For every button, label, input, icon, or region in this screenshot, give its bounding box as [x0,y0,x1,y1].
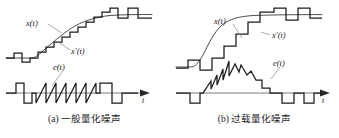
figure-root: x(t) x′(t) e(t) t (a) 一般量化噪声 x(t) x′(t) [0,0,339,138]
panel-b-caption: (b) 过载量化噪声 [170,112,339,126]
leader-line-input-b [233,24,242,38]
input-signal-label-a: x(t) [25,18,38,28]
leader-line-input-a [48,24,62,33]
error-signal-b [176,61,322,103]
error-signal-label-a: e(t) [53,62,65,72]
leader-line-quantized-a [58,42,70,50]
time-axis-label-b: t [322,96,325,105]
quantized-signal-label-a: x′(t) [70,46,85,56]
error-signal-label-b: e(t) [273,58,285,68]
leader-line-error-b [271,67,280,79]
panel-a-diagram: x(t) x′(t) e(t) t [0,0,169,112]
time-axis-label-a: t [142,96,145,105]
quantized-signal-label-b: x′(t) [271,30,286,40]
input-signal-label-b: x(t) [213,16,226,26]
panel-b-overload-quantization-noise: x(t) x′(t) e(t) t (b) 过载量化噪声 [170,0,339,138]
panel-b-diagram: x(t) x′(t) e(t) t [170,0,339,112]
quantized-staircase-b [176,8,322,70]
panel-a-general-quantization-noise: x(t) x′(t) e(t) t (a) 一般量化噪声 [0,0,169,138]
leader-line-quantized-b [261,32,270,35]
panel-a-caption: (a) 一般量化噪声 [0,112,169,126]
leader-line-error-a [52,72,62,86]
